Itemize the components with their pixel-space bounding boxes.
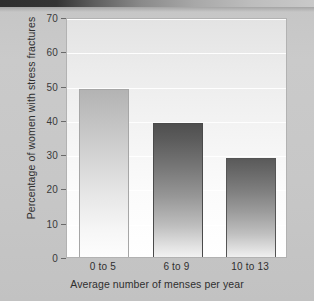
bar-10-to-13 <box>226 158 276 257</box>
bar-6-to-9 <box>153 123 203 257</box>
y-axis-tick <box>61 87 66 88</box>
y-axis-tick-label: 70 <box>46 13 58 24</box>
y-axis-title: Percentage of women with stress fracture… <box>25 3 37 233</box>
y-axis-tick-label: 30 <box>46 150 58 161</box>
y-axis-tick <box>61 155 66 156</box>
scan-artifact-band <box>0 0 314 7</box>
bar-0-to-5 <box>79 89 129 257</box>
figure-bar-chart: 010203040506070 Percentage of women with… <box>0 0 314 301</box>
y-axis-tick <box>61 18 66 19</box>
y-axis-tick-label: 10 <box>46 218 58 229</box>
x-axis-tick-label: 6 to 9 <box>163 261 189 272</box>
y-axis-tick <box>61 121 66 122</box>
scan-artifact-band-fade <box>0 7 314 12</box>
y-axis-tick <box>61 224 66 225</box>
x-axis-tick-label: 0 to 5 <box>90 261 116 272</box>
x-axis-title: Average number of menses per year <box>0 278 314 290</box>
y-axis-tick <box>61 258 66 259</box>
y-axis-tick-label: 40 <box>46 115 58 126</box>
y-axis-tick-label: 0 <box>52 253 58 264</box>
bars-layer <box>67 19 286 257</box>
x-axis-tick-labels: 0 to 56 to 910 to 13 <box>66 261 287 275</box>
y-axis-tick <box>61 189 66 190</box>
y-axis-tick-label: 20 <box>46 184 58 195</box>
y-axis-ticks <box>66 18 67 258</box>
y-axis-tick-label: 60 <box>46 47 58 58</box>
y-axis-tick <box>61 52 66 53</box>
plot-area <box>66 18 287 258</box>
x-axis-tick-label: 10 to 13 <box>231 261 269 272</box>
y-axis-tick-label: 50 <box>46 81 58 92</box>
